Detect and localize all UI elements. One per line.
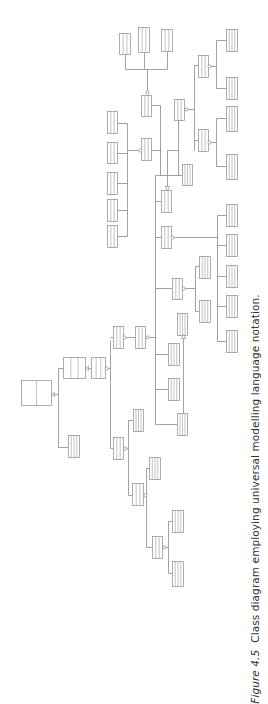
circle-marker-icon [182,287,185,290]
class-boxes [22,28,238,587]
class-box [153,537,163,559]
class-box [108,173,118,195]
circle-marker-icon [163,546,166,549]
class-box [227,205,238,227]
class-box [227,331,238,353]
class-box [227,107,238,132]
class-box [150,458,161,480]
class-box [114,327,124,349]
arrow-marker-icon [165,186,169,190]
class-box [108,112,118,134]
triangle-marker-icon [52,392,55,396]
class-box [108,226,118,248]
circle-marker-icon [146,336,149,339]
class-box [175,100,185,121]
class-box [69,436,80,458]
class-box [227,78,238,100]
class-box [199,56,209,78]
class-box [178,414,188,436]
class-box [162,30,173,52]
class-box [133,484,144,506]
class-box [169,379,180,401]
circle-marker-icon [139,149,142,152]
class-box [142,96,152,117]
class-box [173,279,183,300]
class-box [227,235,238,257]
diamond-marker-icon [105,367,108,370]
circle-marker-icon [208,65,211,68]
diamond-marker-icon [171,236,174,239]
circle-marker-icon [185,108,188,111]
relationship-markers [52,65,212,549]
class-box [139,28,150,53]
class-box [199,130,209,152]
class-box [92,358,106,379]
class-box [227,30,238,52]
class-box [114,438,124,460]
class-box [64,358,86,379]
class-box [173,511,184,533]
class-box [169,344,180,366]
class-box [227,266,238,288]
class-box [108,143,118,164]
figure-caption-text: Class diagram employing universal modell… [249,294,261,643]
circle-marker-icon [144,494,147,497]
class-box [162,191,172,213]
circle-marker-icon [123,336,126,339]
class-box [200,301,211,323]
class-box [200,257,211,279]
class-box [162,227,172,249]
triangle-marker-icon [86,366,89,370]
class-box [22,381,52,406]
class-box [178,314,188,336]
class-box [173,562,184,587]
circle-marker-icon [208,141,211,144]
class-box [134,410,144,432]
class-box [120,34,131,55]
class-box [136,327,146,349]
figure-caption: Figure 4.5 Class diagram employing unive… [249,294,261,704]
class-box [227,155,238,180]
circle-marker-icon [124,447,127,450]
circle-marker-icon [146,91,149,94]
class-box [183,165,193,186]
class-box [108,200,118,222]
class-box [142,139,152,161]
figure-label: Figure 4.5 [249,650,261,704]
class-box [227,296,238,318]
